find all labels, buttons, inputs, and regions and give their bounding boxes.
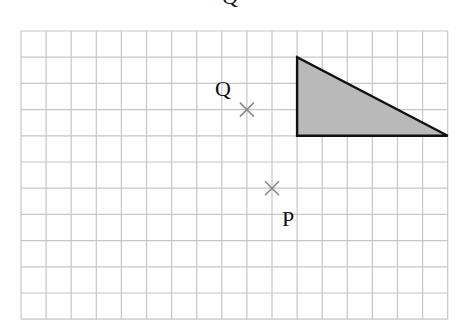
square-grid: [21, 31, 448, 319]
clipped-label-text: Q: [222, 0, 238, 9]
marked-points: QP: [215, 76, 294, 232]
clipped-top-label: Q: [222, 0, 238, 9]
grid-diagram: Q QP: [0, 0, 461, 332]
point-q: Q: [215, 76, 254, 117]
point-label: P: [282, 206, 294, 231]
point-label: Q: [215, 76, 231, 101]
